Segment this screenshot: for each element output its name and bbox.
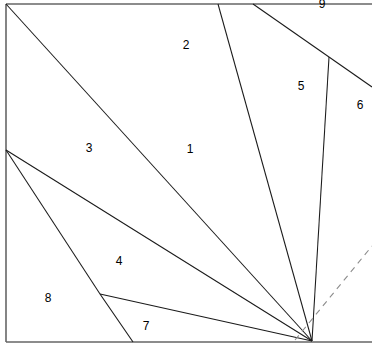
seg-top-253-to-right-branch — [253, 4, 329, 57]
region-label-7: 7 — [143, 320, 150, 332]
region-label-5: 5 — [298, 80, 305, 92]
seg-top-218-to-apex — [218, 4, 312, 341]
seg-node-to-bottom — [100, 294, 133, 342]
region-label-2: 2 — [183, 39, 190, 51]
outer-square-border — [6, 4, 372, 342]
region-label-3: 3 — [86, 142, 93, 154]
region-label-9: 9 — [319, 0, 326, 10]
partition-segments — [6, 4, 372, 342]
seg-left-fan-to-node — [6, 150, 100, 294]
seg-right-branch-to-right-edge — [329, 57, 372, 87]
seg-top-left-to-apex — [6, 4, 312, 341]
region-label-1: 1 — [187, 143, 194, 155]
partition-diagram-svg — [0, 0, 372, 352]
diagram-canvas: 123456789 — [0, 0, 372, 352]
seg-left-fan-to-apex — [6, 150, 312, 341]
seg-node-to-apex — [100, 294, 312, 341]
region-label-8: 8 — [45, 292, 52, 304]
seg-right-branch-to-apex — [312, 57, 329, 341]
region-label-6: 6 — [357, 99, 364, 111]
seg-dashed-diagonal — [295, 246, 372, 340]
region-label-4: 4 — [116, 255, 123, 267]
